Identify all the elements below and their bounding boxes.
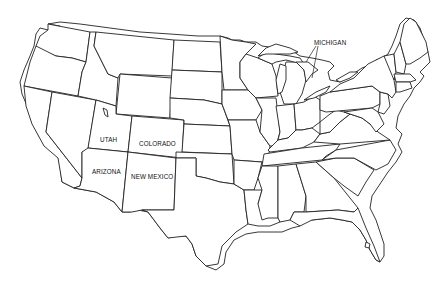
new-mexico <box>122 152 176 212</box>
label-arizona: ARIZONA <box>92 168 121 175</box>
colorado <box>128 116 184 158</box>
label-utah: UTAH <box>100 136 117 143</box>
mississippi <box>258 166 278 220</box>
label-new-mexico: NEW MEXICO <box>131 173 173 180</box>
us-map <box>0 0 444 282</box>
north-dakota <box>172 40 222 72</box>
label-colorado: COLORADO <box>139 140 176 147</box>
wyoming <box>116 74 172 118</box>
label-michigan: MICHIGAN <box>314 39 346 46</box>
kansas <box>182 124 232 154</box>
arizona <box>74 148 128 212</box>
